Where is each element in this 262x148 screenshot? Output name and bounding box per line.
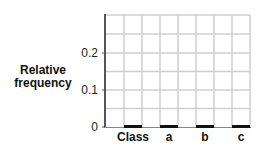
- x-label-c: c: [223, 130, 259, 144]
- y-tick-label-0: 0: [68, 120, 98, 134]
- bar-b: [196, 125, 214, 128]
- y-tick-label-0.2: 0.2: [68, 46, 98, 60]
- x-label-b: b: [187, 130, 223, 144]
- x-label-a: a: [151, 130, 187, 144]
- bar-c: [232, 125, 250, 128]
- x-label-class: Class: [115, 130, 151, 144]
- bar-class: [124, 125, 142, 128]
- relative-frequency-chart: Relative frequency 0.2 0.1 0 Class a b c: [0, 0, 262, 148]
- bar-a: [160, 125, 178, 128]
- y-tick-label-0.1: 0.1: [68, 83, 98, 97]
